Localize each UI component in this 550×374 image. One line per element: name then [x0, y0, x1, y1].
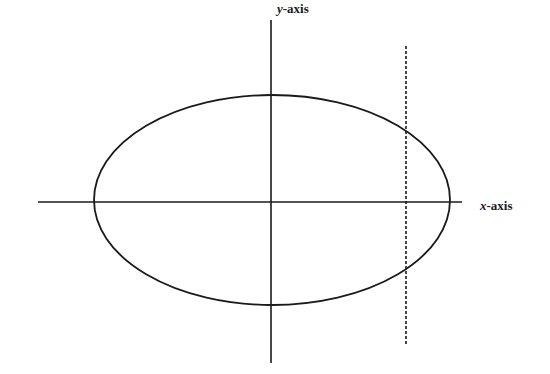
ellipse-diagram: y-axis x-axis — [0, 0, 550, 374]
y-axis-suffix: -axis — [283, 1, 309, 16]
x-axis-label: x-axis — [479, 198, 513, 213]
x-axis-suffix: -axis — [487, 198, 513, 213]
ellipse-curve — [94, 95, 450, 305]
y-axis-label: y-axis — [275, 1, 309, 16]
